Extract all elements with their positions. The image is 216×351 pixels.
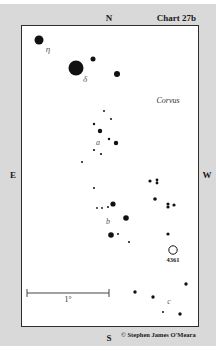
- asterism-label: c: [167, 298, 171, 306]
- asterism-label: a: [96, 139, 100, 147]
- copyright-notice: © Stephen James O'Meara: [121, 332, 196, 339]
- star-designation-label: δ: [83, 75, 87, 84]
- chart-frame: [21, 25, 199, 327]
- scale-bar-label: 1°: [64, 296, 71, 304]
- cardinal-east: E: [10, 171, 16, 180]
- deep-sky-label: 4361: [167, 257, 180, 264]
- asterism-label: b: [106, 218, 110, 226]
- cardinal-north: N: [106, 14, 113, 23]
- chart-title: Chart 27b: [157, 14, 196, 23]
- cardinal-south: S: [106, 334, 111, 343]
- star-designation-label: η: [46, 45, 50, 54]
- cardinal-west: W: [203, 171, 212, 180]
- constellation-label: Corvus: [156, 97, 179, 105]
